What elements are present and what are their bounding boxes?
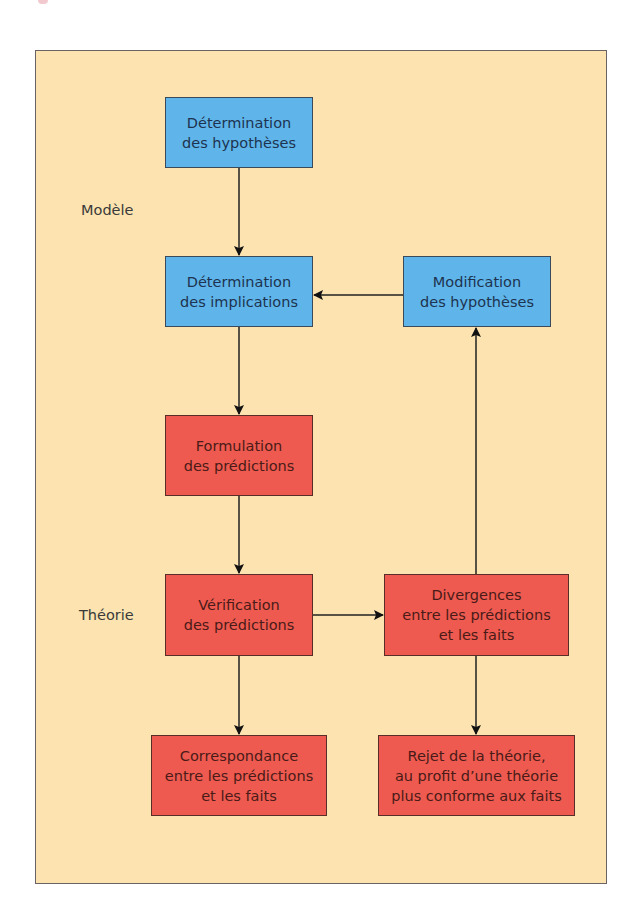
box-verification-predictions: Vérification des prédictions [165,574,313,656]
box-text: Modification des hypothèses [420,272,534,312]
box-text: Détermination des implications [180,272,298,312]
section-label-model: Modèle [81,202,133,218]
box-text: Correspondance entre les prédictions et … [165,746,313,806]
section-label-theory: Théorie [79,607,134,623]
box-text: Vérification des prédictions [184,595,295,635]
box-divergences: Divergences entre les prédictions et les… [384,574,569,656]
box-text: Rejet de la théorie, au profit d’une thé… [391,746,561,806]
box-correspondance: Correspondance entre les prédictions et … [151,735,327,816]
box-rejet-theorie: Rejet de la théorie, au profit d’une thé… [378,735,575,816]
box-determination-implications: Détermination des implications [165,256,313,327]
box-determination-hypotheses: Détermination des hypothèses [165,97,313,168]
box-modification-hypotheses: Modification des hypothèses [403,256,551,327]
box-text: Formulation des prédictions [184,436,295,476]
box-text: Détermination des hypothèses [182,113,296,153]
box-formulation-predictions: Formulation des prédictions [165,415,313,496]
box-text: Divergences entre les prédictions et les… [402,585,550,645]
